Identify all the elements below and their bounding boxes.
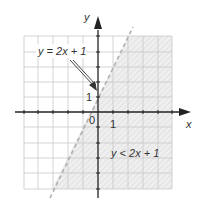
y-axis-label: y	[83, 11, 91, 23]
x-axis-label: x	[185, 118, 192, 130]
origin-label: 0	[89, 114, 95, 126]
inequality-graph: y x 0 1 1 y = 2x + 1 y < 2x + 1	[0, 0, 207, 215]
y-tick-label-1: 1	[86, 91, 92, 103]
inequality-label: y < 2x + 1	[110, 147, 159, 159]
line-equation-label: y = 2x + 1	[37, 45, 86, 57]
pointer-arrow-icon	[70, 60, 97, 91]
x-axis-arrow-icon	[179, 108, 191, 116]
y-axis-arrow-icon	[94, 16, 102, 29]
x-tick-label-1: 1	[110, 118, 116, 130]
